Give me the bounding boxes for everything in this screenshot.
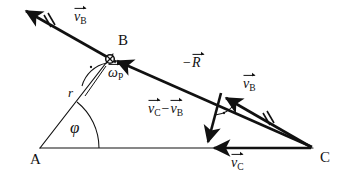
label-v-subscript-right: B [249,83,255,93]
vector-vB-top-shaft [26,11,116,62]
vector-arrow-accent-icon [170,96,176,102]
right-angle-dot-triangle [223,112,225,114]
label-v-subscript-top: B [80,16,86,26]
label-point-c: C [320,150,330,165]
vector-diagram-canvas [0,0,343,181]
label-point-b: B [118,33,128,48]
label-omega-p: ωP [108,66,123,82]
label-vector-vB-top: vB [74,10,87,26]
label-R-symbol: R [192,55,201,70]
right-angle-dot-B [90,66,92,68]
label-v-symbol-diff-1: v [148,101,154,116]
label-vector-vB-right: vB [243,77,256,93]
vector-arrow-accent-icon [231,150,237,156]
angle-phi-arc [77,102,99,148]
label-v-symbol-right: v [243,76,249,91]
label-vector-vC-minus-vB: vC−vB [148,102,183,118]
label-point-a: A [30,152,41,167]
label-angle-phi: φ [70,119,79,136]
label-radius-r: r [68,86,73,99]
vector-arrow-accent-icon [74,4,80,10]
label-minus-sign-diff: − [161,101,171,116]
label-v-subscript-diff-1: C [154,108,160,118]
label-v-symbol-vC: v [231,155,237,170]
vector-arrow-accent-icon [148,96,154,102]
label-v-symbol-top: v [74,9,80,24]
vector-diagram-figure: vB B ωP −R r vB vC−vB φ A vC C [0,0,343,181]
vector-arrow-accent-icon [243,71,249,77]
label-omega-symbol: ω [108,65,118,80]
vector-negR-shaft [117,61,312,147]
vector-vC-minus-vB-shaft [208,93,221,142]
label-v-subscript-diff-2: B [177,108,183,118]
omega-leader-line [85,66,106,96]
label-v-subscript-vC: C [237,162,243,172]
label-minus-sign-R: − [182,55,192,70]
label-omega-subscript: P [118,72,123,82]
label-v-symbol-diff-2: v [170,101,176,116]
label-vector-neg-R: −R [182,56,200,70]
label-vector-vC: vC [231,156,244,172]
vector-arrow-accent-icon [108,60,118,66]
vector-arrow-accent-icon [192,50,201,56]
